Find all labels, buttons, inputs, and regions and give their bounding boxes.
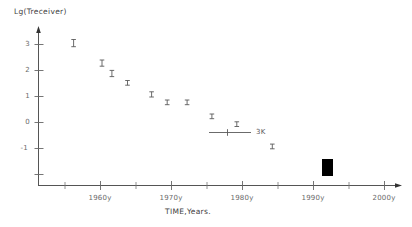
y-tick-label-2: 2 (16, 67, 30, 74)
data-point (100, 60, 105, 66)
x-tick-label-1980: 1980y (225, 195, 259, 202)
y-tick-label-0: 0 (16, 119, 30, 126)
y-tick-label-3: 3 (16, 41, 30, 48)
data-point (165, 100, 170, 105)
data-point (149, 92, 154, 97)
x-axis (39, 183, 403, 188)
chart-plot-area (0, 0, 412, 227)
data-point (270, 144, 275, 149)
data-point (210, 114, 215, 119)
data-point (125, 81, 130, 86)
y-tick-label-1: 1 (16, 93, 30, 100)
x-tick-label-1990: 1990y (296, 195, 330, 202)
data-point (71, 40, 76, 47)
y-axis-title: Lg(Treceiver) (14, 8, 67, 16)
three-k-reference-line (209, 129, 251, 136)
x-tick-label-1960: 1960y (83, 195, 117, 202)
x-tick-label-1970: 1970y (154, 195, 188, 202)
y-axis (36, 26, 41, 186)
x-axis-title: TIME,Years. (165, 208, 211, 216)
data-point (110, 70, 115, 76)
chart-container: Lg(Treceiver) 3 2 1 0 -1 1960y 1970y 198… (0, 0, 412, 227)
x-tick-label-2000: 2000y (367, 195, 401, 202)
data-point (235, 122, 240, 127)
three-k-annotation-label: 3K (256, 129, 266, 136)
filled-block-marker (322, 159, 333, 176)
y-tick-label-neg1: -1 (14, 145, 28, 152)
data-point (185, 100, 190, 105)
